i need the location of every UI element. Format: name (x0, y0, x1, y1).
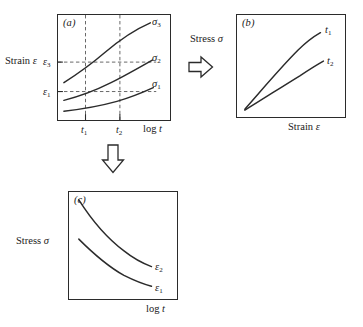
curve-label-sigma1-sub: 1 (157, 83, 161, 91)
arrow-a-to-c (100, 144, 126, 174)
panel-a-ylabel-symbol: ε (33, 55, 37, 66)
ytick-label-eps3-sub: 3 (47, 61, 51, 69)
xtick-label-t1: t1 (81, 124, 87, 135)
panel-b-xlabel-symbol: ε (316, 121, 320, 132)
curve-label-eps1: ε1 (155, 282, 163, 293)
curve-label-t1-sub: 1 (328, 29, 332, 37)
panel-c-ylabel-text: Stress (16, 235, 44, 246)
curve-t2 (245, 61, 324, 110)
ytick-label-eps1-sub: 1 (47, 91, 51, 99)
panel-b-ylabel-text: Stress (190, 33, 218, 44)
panel-c-tag: (c) (74, 194, 86, 205)
xtick-label-t2-sub: 2 (119, 129, 123, 137)
xtick-label-t2: t2 (116, 124, 122, 135)
curve-label-sigma1: σ1 (152, 78, 161, 89)
panel-a-ylabel-text: Strain (5, 55, 33, 66)
curve-label-t2-sub: 2 (330, 60, 334, 68)
curve-label-sigma2-sub: 2 (157, 57, 161, 65)
panel-c-ylabel-symbol: σ (44, 235, 49, 246)
panel-a-xlabel: log t (143, 123, 162, 134)
arrow-a-to-b (188, 54, 214, 80)
panel-b-xlabel-text: Strain (288, 121, 316, 132)
figure-title: Interrelation of creep, isochronous and … (0, 0, 1, 1)
panel-a-tag: (a) (63, 17, 76, 28)
panel-a-xlabel-text: log (143, 123, 159, 134)
curve-sigma3 (64, 23, 150, 83)
curve-label-t2: t2 (327, 55, 333, 66)
panel-c-xlabel: log t (146, 303, 165, 314)
curve-eps1 (79, 239, 152, 286)
panel-b-ylabel: Stress σ (190, 33, 223, 44)
curve-t1 (245, 33, 321, 110)
curve-eps2 (79, 200, 152, 267)
panel-a-plot-area (58, 15, 170, 120)
panel-b-tag: (b) (242, 17, 255, 28)
panel-c-ylabel: Stress σ (16, 235, 49, 246)
panel-b-ylabel-symbol: σ (218, 33, 223, 44)
panel-a-creep-curves: (a) (57, 14, 171, 121)
curve-label-eps2: ε2 (155, 261, 163, 272)
panel-c-xlabel-text: log (146, 303, 162, 314)
figure-root: (a) σ3 σ2 σ1 Strain ε ε3 ε1 t1 t2 log t (0, 0, 363, 327)
panel-a-xlabel-symbol: t (159, 123, 162, 134)
arrow-right-icon (188, 54, 214, 80)
panel-a-ylabel: Strain ε (5, 55, 37, 66)
ytick-label-eps1: ε1 (43, 86, 50, 97)
panel-c-xlabel-symbol: t (162, 303, 165, 314)
curve-label-eps2-sub: 2 (159, 266, 163, 274)
curve-label-eps1-sub: 1 (159, 287, 163, 295)
arrow-down-icon (100, 144, 126, 174)
panel-b-xlabel: Strain ε (288, 121, 320, 132)
curve-label-sigma3: σ3 (152, 16, 161, 27)
curve-label-t1: t1 (325, 24, 331, 35)
curve-label-sigma2: σ2 (152, 52, 161, 63)
ytick-label-eps3: ε3 (43, 56, 50, 67)
curve-label-sigma3-sub: 3 (157, 21, 161, 29)
xtick-label-t1-sub: 1 (84, 129, 88, 137)
